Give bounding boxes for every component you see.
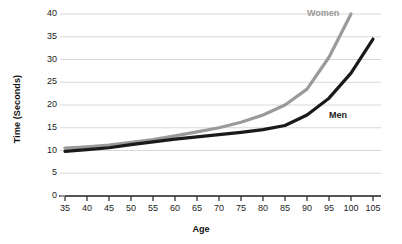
series-label-women: Women xyxy=(307,8,339,18)
y-axis-title: Time (Seconds) xyxy=(12,54,22,164)
y-axis-tick-label: 35 xyxy=(31,31,57,41)
y-axis-tick-label: 20 xyxy=(31,99,57,109)
y-axis-tick-label: 30 xyxy=(31,54,57,64)
y-axis-tick-label: 10 xyxy=(31,145,57,155)
y-axis-tick-label: 25 xyxy=(31,76,57,86)
series-label-men: Men xyxy=(329,110,347,120)
y-axis-tick-label: 40 xyxy=(31,8,57,18)
series-line-men xyxy=(65,39,373,151)
x-axis-title: Age xyxy=(0,224,402,234)
y-axis-tick-label: 0 xyxy=(31,190,57,200)
x-axis-tick-label: 105 xyxy=(358,203,388,213)
y-axis-tick-label: 15 xyxy=(31,122,57,132)
chart-container: Time (Seconds) Age 0510152025303540 3540… xyxy=(0,0,402,244)
y-axis-tick-label: 5 xyxy=(31,167,57,177)
